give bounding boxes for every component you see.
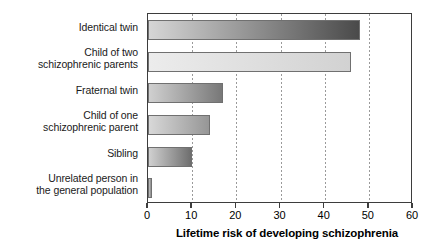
bar-2 xyxy=(148,83,223,103)
bar-4 xyxy=(148,147,192,167)
bar-1 xyxy=(148,52,351,72)
x-tick-60 xyxy=(411,203,413,208)
category-label-fraternal-twin: Fraternal twin xyxy=(0,85,138,97)
gridline-20 xyxy=(236,14,237,202)
gridline-30 xyxy=(281,14,282,202)
category-label-identical-twin: Identical twin xyxy=(0,22,138,34)
category-label-child-of-one-schizophrenic-parent: Child of one schizophrenic parent xyxy=(0,110,138,133)
bar-3 xyxy=(148,115,210,135)
x-tick-label-30: 30 xyxy=(273,209,285,222)
category-label-unrelated-person-in-the-general-population: Unrelated person in the general populati… xyxy=(0,173,138,196)
bar-0 xyxy=(148,20,360,40)
plot-area xyxy=(147,13,412,203)
x-tick-40 xyxy=(323,203,325,208)
x-axis-title: Lifetime risk of developing schizophreni… xyxy=(147,227,427,239)
bar-5 xyxy=(148,178,152,198)
gridline-10 xyxy=(192,14,193,202)
x-tick-0 xyxy=(146,203,148,208)
x-tick-label-40: 40 xyxy=(318,209,330,222)
x-tick-label-0: 0 xyxy=(144,209,150,222)
x-axis: 0102030405060 xyxy=(147,203,412,225)
x-tick-label-20: 20 xyxy=(229,209,241,222)
category-label-child-of-two-schizophrenic-parents: Child of two schizophrenic parents xyxy=(0,47,138,70)
x-tick-label-10: 10 xyxy=(185,209,197,222)
x-tick-label-60: 60 xyxy=(406,209,418,222)
gridline-50 xyxy=(369,14,370,202)
x-tick-50 xyxy=(367,203,369,208)
x-tick-label-50: 50 xyxy=(362,209,374,222)
bar-chart: Identical twin Child of two schizophreni… xyxy=(0,0,431,250)
x-tick-10 xyxy=(190,203,192,208)
category-axis-labels: Identical twin Child of two schizophreni… xyxy=(0,13,143,203)
x-tick-30 xyxy=(279,203,281,208)
x-tick-20 xyxy=(235,203,237,208)
category-label-sibling: Sibling xyxy=(0,148,138,160)
gridline-40 xyxy=(325,14,326,202)
